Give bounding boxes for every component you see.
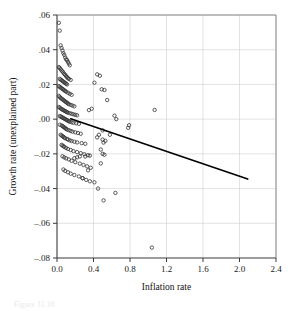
y-tick-label: –.02 [33,149,50,159]
x-tick-label: 1.6 [197,264,209,274]
x-tick-label: 0.4 [88,264,100,274]
x-tick-label: 0.8 [124,264,136,274]
y-tick-label: .02 [39,80,50,90]
scatter-plot-figure: 0.00.40.81.21.62.02.4.06.04.02.00–.02–.0… [0,0,300,311]
x-axis-title: Inflation rate [142,282,191,292]
x-tick-label: 2.4 [270,264,282,274]
x-tick-label: 1.2 [161,264,172,274]
figure-caption: Figure 11.10 [14,300,55,309]
y-axis-title: Growth rate (unexplained part) [8,78,19,196]
y-tick-label: .06 [39,10,51,20]
y-tick-label: –.08 [33,253,50,263]
x-tick-label: 2.0 [234,264,246,274]
chart-canvas: 0.00.40.81.21.62.02.4.06.04.02.00–.02–.0… [0,0,300,311]
y-tick-label: .04 [39,45,51,55]
x-tick-label: 0.0 [51,264,63,274]
y-tick-label: –.06 [33,218,50,228]
y-tick-label: .00 [39,114,51,124]
y-tick-label: –.04 [33,184,50,194]
